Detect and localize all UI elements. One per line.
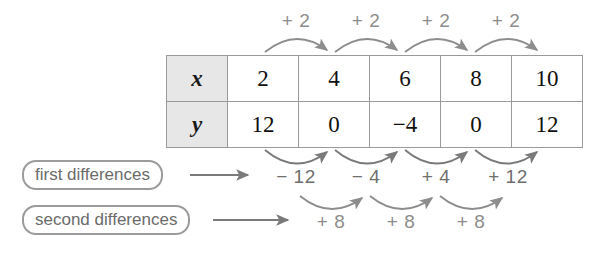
- finite-differences-table: x 2 4 6 8 10 y 12 0 −4 0 12: [166, 55, 583, 148]
- cell-x-5: 10: [512, 56, 583, 102]
- first-difference-value-2: − 4: [352, 166, 380, 188]
- cell-x-1: 2: [228, 56, 299, 102]
- table-row-x: x 2 4 6 8 10: [167, 56, 583, 102]
- cell-x-2: 4: [299, 56, 370, 102]
- second-difference-arcs: [300, 196, 502, 209]
- first-difference-value-3: + 4: [422, 166, 450, 188]
- cell-y-2: 0: [299, 102, 370, 148]
- first-difference-value-4: + 12: [488, 166, 528, 188]
- first-difference-arcs: [265, 150, 537, 164]
- cell-y-3: −4: [370, 102, 441, 148]
- x-step-label-1: + 2: [282, 10, 310, 32]
- first-difference-value-1: − 12: [276, 166, 316, 188]
- cell-y-1: 12: [228, 102, 299, 148]
- first-differences-callout: first differences: [22, 160, 163, 190]
- second-difference-value-3: + 8: [457, 211, 485, 233]
- x-step-label-2: + 2: [352, 10, 380, 32]
- cell-x-3: 6: [370, 56, 441, 102]
- second-differences-callout: second differences: [22, 205, 190, 235]
- first-differences-callout-label: first differences: [35, 165, 150, 185]
- x-step-label-4: + 2: [492, 10, 520, 32]
- second-difference-value-1: + 8: [317, 211, 345, 233]
- second-differences-callout-label: second differences: [35, 210, 177, 230]
- cell-y-5: 12: [512, 102, 583, 148]
- x-step-arcs: [265, 39, 537, 52]
- table-row-y: y 12 0 −4 0 12: [167, 102, 583, 148]
- row-header-x: x: [167, 56, 228, 102]
- x-step-label-3: + 2: [422, 10, 450, 32]
- second-difference-value-2: + 8: [387, 211, 415, 233]
- figure-canvas: x 2 4 6 8 10 y 12 0 −4 0 12: [0, 0, 602, 253]
- row-header-y: y: [167, 102, 228, 148]
- cell-y-4: 0: [441, 102, 512, 148]
- cell-x-4: 8: [441, 56, 512, 102]
